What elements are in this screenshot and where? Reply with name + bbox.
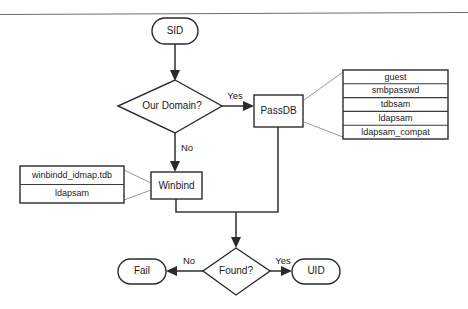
flowchart-diagram: SID Our Domain? Yes No PassDB guest smbp…: [0, 0, 468, 309]
node-uid-label: UID: [307, 265, 324, 276]
list-item: guest: [384, 72, 407, 82]
edge-label-domain-yes: Yes: [227, 90, 243, 101]
page-border-top: [0, 13, 468, 15]
node-our-domain-label: Our Domain?: [142, 100, 202, 111]
winbind-backend-list: winbindd_idmap.tdb ldapsam: [20, 166, 124, 203]
leader-passdb-list-top: [304, 72, 343, 100]
node-found-label: Found?: [219, 265, 253, 276]
edge-label-found-no: No: [183, 255, 195, 266]
list-item: tdbsam: [381, 99, 411, 109]
arrow-domain-no-to-winbind: [170, 161, 180, 172]
edge-label-domain-no: No: [181, 142, 193, 153]
node-fail-label: Fail: [134, 265, 150, 276]
arrow-found-yes-to-uid: [281, 266, 292, 276]
node-passdb-label: PassDB: [260, 105, 296, 116]
leader-idmap-list-top: [124, 170, 151, 183]
list-item: winbindd_idmap.tdb: [31, 170, 112, 180]
flowchart-canvas: SID Our Domain? Yes No PassDB guest smbp…: [0, 0, 468, 309]
leader-passdb-list-bottom: [304, 122, 343, 137]
arrow-domain-yes-to-passdb: [243, 101, 254, 111]
list-item: ldapsam: [378, 113, 412, 123]
list-item: ldapsam: [55, 188, 89, 198]
list-item: ldapsam_compat: [361, 127, 430, 137]
node-winbind-label: Winbind: [158, 180, 194, 191]
passdb-backend-list: guest smbpasswd tdbsam ldapsam ldapsam_c…: [343, 70, 448, 139]
edge-label-found-yes: Yes: [275, 255, 291, 266]
leader-idmap-list-bottom: [124, 190, 151, 200]
arrow-merge-to-found: [231, 237, 241, 248]
node-sid-label: SID: [167, 25, 184, 36]
arrow-found-no-to-fail: [166, 266, 177, 276]
list-item: smbpasswd: [372, 85, 420, 95]
